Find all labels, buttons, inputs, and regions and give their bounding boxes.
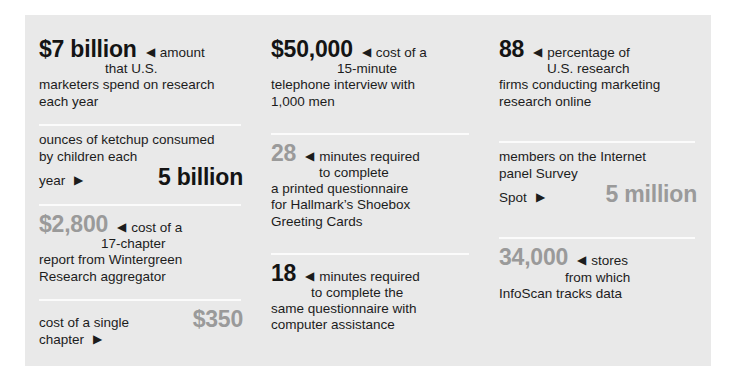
stat-lead-line1: members on the Internet [499,149,697,165]
stat-tail-line1: InfoScan tracks data [499,286,697,302]
stat-tail-line3: Greeting Cards [271,214,471,230]
stat-value: 88 [499,37,524,61]
stat-lead-line3: Spot [499,190,527,205]
stat-value-row: cost of a single chapter▶ $350 [39,307,243,348]
stat-lead-line2: chapter [39,332,84,347]
stat-tail-line2: computer assistance [271,317,471,333]
arrow-left-icon: ◀ [353,46,376,58]
stat-value: $350 [193,307,243,331]
middle-column: $50,000 ◀ cost of a 15-minute telephone … [257,29,485,356]
stat-value: $50,000 [271,37,353,61]
stat-lead-line1: ounces of ketchup consumed [39,132,243,148]
stat-caption-line2: that U.S. [105,61,243,77]
stat-lead-group: cost of a single chapter▶ [39,315,129,348]
stat-tail-line1: a printed questionnaire [271,181,471,197]
stat-tail-line2: each year [39,94,243,110]
stat-lead-line3: year [39,173,65,188]
stat-caption-line1: minutes required [319,149,420,165]
stat-lead-line2: by children each [39,149,243,165]
stat-caption-line1: amount [160,45,205,61]
stat-tail-line1: telephone interview with [271,77,471,93]
arrow-left-icon: ◀ [524,46,547,58]
cell-350-chapter: cost of a single chapter▶ $350 [39,299,243,356]
stat-lead-line3-group: year▶ [39,171,88,189]
stat-headline-row: 18 ◀ minutes required [271,261,471,285]
stat-headline-row: $7 billion ◀ amount [39,37,243,61]
stat-caption-line2: 17-chapter [101,236,243,252]
infographic-page: $7 billion ◀ amount that U.S. marketers … [0,0,736,384]
stat-value: 18 [271,261,296,285]
stat-caption-line2: U.S. research [547,61,697,77]
stat-caption-line1: minutes required [319,269,420,285]
stat-caption-line1: percentage of [547,45,630,61]
stat-tail-line1: firms conducting marketing [499,77,697,93]
stat-lead-line1: cost of a single [39,315,129,331]
cell-88-percentage: 88 ◀ percentage of U.S. research firms c… [499,29,697,118]
stat-tail-line2: for Hallmark’s Shoebox [271,197,471,213]
cell-5-billion-ketchup: ounces of ketchup consumed by children e… [39,124,243,197]
stat-value: 5 billion [158,165,243,189]
cell-7-billion: $7 billion ◀ amount that U.S. marketers … [39,29,243,118]
cell-5-million-surveyspot: members on the Internet panel Survey Spo… [499,141,697,214]
stat-value: 34,000 [499,245,568,269]
stat-value: 28 [271,141,296,165]
cell-2800-report: $2,800 ◀ cost of a 17-chapter report fro… [39,204,243,293]
stat-caption-line1: stores [591,253,628,269]
stat-lead-line2: panel Survey [499,166,697,182]
arrow-right-icon: ▶ [84,332,107,346]
stat-headline-row: 34,000 ◀ stores [499,245,697,269]
stat-caption-line1: cost of a [376,45,427,61]
stat-tail-line1: report from Wintergreen [39,252,243,268]
cell-34000-infoscan: 34,000 ◀ stores from which InfoScan trac… [499,237,697,310]
stat-headline-row: 88 ◀ percentage of [499,37,697,61]
arrow-left-icon: ◀ [108,221,131,233]
stat-lead-line3-group: Spot▶ [499,188,550,206]
cell-18-minutes: 18 ◀ minutes required to complete the sa… [271,253,471,342]
arrow-right-icon: ▶ [527,190,550,204]
stat-value-row: Spot▶ 5 million [499,182,697,206]
arrow-left-icon: ◀ [568,254,591,266]
arrow-left-icon: ◀ [137,46,160,58]
stats-panel: $7 billion ◀ amount that U.S. marketers … [25,15,711,366]
stat-caption-line2: 15-minute [337,61,471,77]
stat-tail-line2: 1,000 men [271,94,471,110]
stat-value-row: year▶ 5 billion [39,165,243,189]
stat-value: $7 billion [39,37,137,61]
stat-caption-line2: to complete [319,165,471,181]
stat-value: $2,800 [39,212,108,236]
stat-lead-line2-group: chapter▶ [39,332,129,348]
right-column: 88 ◀ percentage of U.S. research firms c… [485,29,697,356]
arrow-right-icon: ▶ [65,173,88,187]
stat-headline-row: 28 ◀ minutes required [271,141,471,165]
stat-tail-line1: marketers spend on research [39,77,243,93]
stat-headline-row: $50,000 ◀ cost of a [271,37,471,61]
stat-headline-row: $2,800 ◀ cost of a [39,212,243,236]
left-column: $7 billion ◀ amount that U.S. marketers … [39,29,257,356]
stat-tail-line2: research online [499,94,697,110]
arrow-left-icon: ◀ [296,270,319,282]
arrow-left-icon: ◀ [296,150,319,162]
stat-tail-line1: same questionnaire with [271,301,471,317]
stat-value: 5 million [606,182,698,206]
stat-caption-line2: to complete the [311,285,471,301]
stat-caption-line1: cost of a [131,220,182,236]
cell-28-minutes: 28 ◀ minutes required to complete a prin… [271,133,471,239]
cell-50000-telephone: $50,000 ◀ cost of a 15-minute telephone … [271,29,471,118]
stat-tail-line2: Research aggregator [39,269,243,285]
stat-caption-line2: from which [565,270,697,286]
